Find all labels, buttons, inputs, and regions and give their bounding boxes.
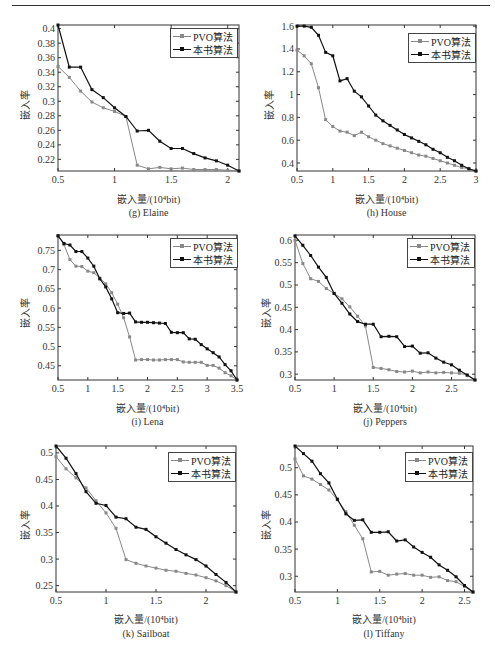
data-point-marker	[446, 579, 449, 582]
y-tick-label: 0.4	[280, 516, 293, 527]
data-point-marker	[336, 498, 339, 501]
data-point-marker	[327, 481, 330, 484]
data-point-marker	[319, 483, 322, 486]
legend-line-marker-icon	[408, 457, 426, 464]
chart-legend: PVO算法本书算法	[405, 452, 473, 482]
data-point-marker	[327, 488, 330, 491]
data-point-marker	[429, 556, 432, 559]
data-point-marker	[446, 569, 449, 572]
chart-panel-tiffany: 0.511.522.50.30.350.40.450.5 嵌入率 嵌入量/(10…	[0, 0, 495, 650]
data-point-marker	[387, 574, 390, 577]
data-point-marker	[412, 574, 415, 577]
data-point-marker	[319, 472, 322, 475]
data-point-marker	[294, 458, 297, 461]
chart-svg: 0.511.522.50.30.350.40.450.5	[0, 0, 495, 650]
data-point-marker	[302, 474, 305, 477]
data-point-marker	[404, 572, 407, 575]
y-tick-label: 0.45	[275, 489, 293, 500]
data-point-marker	[387, 530, 390, 533]
data-point-marker	[463, 584, 466, 587]
data-point-marker	[370, 531, 373, 534]
x-tick-label: 1	[335, 595, 340, 606]
data-point-marker	[395, 539, 398, 542]
data-point-marker	[395, 573, 398, 576]
data-point-marker	[370, 570, 373, 573]
x-tick-label: 1.5	[374, 595, 387, 606]
data-point-marker	[429, 576, 432, 579]
legend-line-marker-icon	[408, 470, 426, 477]
y-tick-label: 0.35	[275, 544, 293, 555]
data-point-marker	[344, 512, 347, 515]
data-point-marker	[438, 563, 441, 566]
data-point-marker	[421, 574, 424, 577]
data-point-marker	[412, 545, 415, 548]
legend-item-ours: 本书算法	[408, 467, 468, 480]
data-point-marker	[438, 575, 441, 578]
x-tick-label: 0.5	[289, 595, 302, 606]
data-point-marker	[294, 445, 297, 448]
x-tick-label: 2.5	[458, 595, 471, 606]
data-point-marker	[455, 580, 458, 583]
data-point-marker	[302, 452, 305, 455]
y-axis-label: 嵌入率	[258, 500, 273, 540]
data-point-marker	[310, 460, 313, 463]
chart-caption: (l) Tiffany	[295, 628, 473, 639]
data-point-marker	[421, 551, 424, 554]
legend-label: 本书算法	[428, 466, 468, 481]
data-point-marker	[378, 570, 381, 573]
x-axis-label: 嵌入量/(10⁴bit)	[295, 611, 473, 626]
data-point-marker	[378, 531, 381, 534]
data-point-marker	[404, 538, 407, 541]
y-tick-label: 0.3	[280, 571, 293, 582]
data-point-marker	[310, 478, 313, 481]
data-point-marker	[353, 519, 356, 522]
data-point-marker	[361, 518, 364, 521]
data-point-marker	[455, 575, 458, 578]
data-point-marker	[472, 591, 475, 594]
data-point-marker	[353, 524, 356, 527]
data-point-marker	[361, 537, 364, 540]
y-tick-label: 0.5	[280, 462, 293, 473]
x-tick-label: 2	[420, 595, 425, 606]
